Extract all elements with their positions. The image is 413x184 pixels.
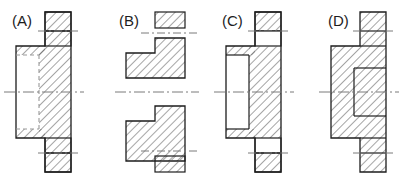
option-c-rim-lower bbox=[255, 153, 281, 172]
option-a-bore-upper bbox=[16, 55, 39, 92]
option-a-rim-lower bbox=[45, 153, 71, 172]
option-b-bottom-block bbox=[155, 156, 185, 172]
option-c-rim-lower-open bbox=[255, 138, 281, 153]
option-a-rim-upper-mid bbox=[45, 31, 71, 46]
option-b-label: (B) bbox=[119, 12, 139, 29]
drawing-sheet: (A) (B) bbox=[0, 0, 413, 184]
option-a-body-upper-hatch bbox=[39, 46, 71, 92]
option-a-body-lower-hatch bbox=[39, 92, 71, 138]
option-b-top-block bbox=[155, 12, 185, 28]
option-a-bore-lower bbox=[16, 92, 39, 129]
option-c-body-lower-hatch bbox=[249, 92, 281, 138]
option-c-rim-upper-open bbox=[255, 31, 281, 46]
option-c-rim-upper bbox=[255, 12, 281, 31]
option-c-body-upper-hatch bbox=[249, 46, 281, 92]
option-c-bore-lower bbox=[226, 92, 249, 129]
option-c-bore-upper bbox=[226, 55, 249, 92]
option-a-label: (A) bbox=[12, 12, 32, 29]
option-a-rim-lower-mid bbox=[45, 138, 71, 153]
section-views-svg: (A) (B) bbox=[0, 0, 413, 184]
option-a-rim-upper bbox=[45, 12, 71, 31]
option-c-label: (C) bbox=[222, 12, 243, 29]
option-d-label: (D) bbox=[328, 12, 349, 29]
